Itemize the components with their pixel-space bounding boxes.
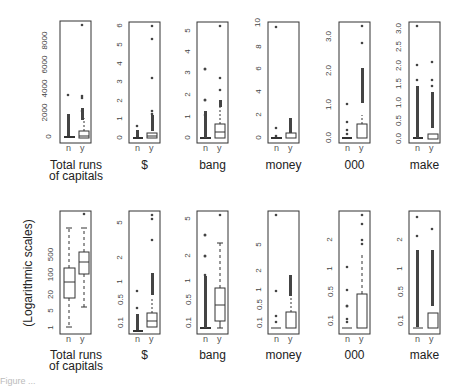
panel-title-dollar: $	[129, 160, 160, 171]
panel-title-make: make	[404, 350, 445, 361]
ytick-l2-4: 5	[115, 220, 124, 224]
panel-title-bang: bang	[192, 160, 233, 171]
ytick-p3-3: 3	[183, 70, 192, 74]
ytick-l4-3: 2	[254, 268, 263, 272]
xlabel-y: y	[217, 334, 222, 344]
ytick-p3-5: 5	[183, 28, 192, 32]
ytick-p4-5: 10	[253, 18, 262, 27]
log-scale-ylabel: (Logarithmic scales)	[21, 213, 35, 333]
xlabel-y: y	[359, 143, 364, 153]
ytick-l1-0: 1	[46, 325, 55, 329]
xlabel-n: n	[203, 143, 208, 153]
ytick-l2-1: 0.5	[116, 294, 125, 305]
panel-title-money: money	[258, 160, 309, 171]
ytick-p2-4: 4	[115, 61, 124, 65]
xlabel-n: n	[415, 334, 420, 344]
panel-title-dollar: $	[129, 350, 160, 361]
ytick-p2-6: 6	[115, 23, 124, 27]
ytick-p6-3: 1.5	[394, 78, 403, 89]
xlabel-y: y	[149, 143, 154, 153]
ytick-l1-1: 5	[46, 308, 55, 312]
ytick-l3-4: 5	[183, 216, 192, 220]
ytick-l6-2: 1	[395, 266, 404, 270]
ytick-l2-2: 1	[115, 279, 124, 283]
ytick-l6-1: 0.5	[396, 286, 405, 297]
ytick-p3-1: 1	[183, 114, 192, 118]
xlabel-n: n	[274, 334, 279, 344]
xlabel-y: y	[429, 143, 434, 153]
panel-title-make: make	[404, 160, 445, 171]
xlabel-y: y	[217, 143, 222, 153]
xlabel-y: y	[288, 334, 293, 344]
ytick-l1-4: 500	[46, 248, 55, 261]
ytick-p5-1: 1.0	[324, 99, 333, 110]
panel-title-total-runs: Total runs of capitals	[45, 350, 107, 372]
panel-title-money: money	[258, 350, 309, 361]
xlabel-y: y	[149, 334, 154, 344]
ytick-p1-0: 0	[44, 134, 53, 138]
ytick-l5-3: 2	[325, 237, 334, 241]
ytick-p3-4: 4	[183, 49, 192, 53]
xlabel-y: y	[80, 334, 85, 344]
ytick-p4-3: 6	[254, 66, 263, 70]
ytick-p1-3: 6000	[40, 56, 49, 74]
panel-title-000: 000	[339, 350, 370, 361]
ytick-l4-2: 1	[254, 287, 263, 291]
ytick-l2-0: 0.1	[116, 317, 125, 328]
xlabel-n: n	[135, 334, 140, 344]
ytick-p5-2: 2.0	[324, 65, 333, 76]
panel-title-total-runs: Total runs of capitals	[45, 160, 107, 182]
ytick-p6-1: 0.5	[394, 115, 403, 126]
xlabel-y: y	[359, 334, 364, 344]
ytick-l3-1: 0.5	[184, 294, 193, 305]
ytick-l4-0: 0.1	[255, 317, 264, 328]
ytick-p2-1: 1	[115, 116, 124, 120]
ytick-p1-2: 4000	[40, 80, 49, 98]
ytick-p6-4: 2.0	[394, 60, 403, 71]
ytick-p4-1: 2	[254, 112, 263, 116]
ytick-p5-3: 3.0	[324, 31, 333, 42]
ytick-p5-0: 0.0	[324, 132, 333, 143]
xlabel-n: n	[345, 334, 350, 344]
ytick-p4-2: 4	[254, 89, 263, 93]
ytick-p6-0: 0.0	[394, 133, 403, 144]
ytick-p2-2: 2	[115, 98, 124, 102]
xlabel-n: n	[203, 334, 208, 344]
xlabel-n: n	[415, 143, 420, 153]
ytick-p6-6: 3.0	[394, 23, 403, 34]
ytick-p3-2: 2	[183, 92, 192, 96]
xlabel-y: y	[80, 143, 85, 153]
ytick-l2-3: 2	[115, 255, 124, 259]
ytick-p1-4: 8000	[40, 32, 49, 50]
ytick-l6-3: 2	[395, 237, 404, 241]
ytick-p1-1: 2000	[40, 104, 49, 122]
panel-title-bang: bang	[192, 350, 233, 361]
ytick-l3-3: 2	[183, 253, 192, 257]
ytick-l1-2: 20	[46, 290, 55, 299]
xlabel-n: n	[135, 143, 140, 153]
ytick-l4-1: 0.5	[255, 299, 264, 310]
ytick-l5-2: 1	[325, 266, 334, 270]
ytick-p4-4: 8	[254, 44, 263, 48]
figure-caption: Figure ...	[0, 376, 36, 386]
xlabel-n: n	[66, 334, 71, 344]
ytick-p4-0: 0	[254, 135, 263, 139]
ytick-p2-3: 3	[115, 79, 124, 83]
ytick-l5-0: 0.1	[326, 315, 335, 326]
ytick-p2-5: 5	[115, 42, 124, 46]
ytick-l6-0: 0.1	[396, 315, 405, 326]
ytick-l5-1: 0.5	[326, 286, 335, 297]
ytick-l3-0: 0.1	[184, 317, 193, 328]
xlabel-n: n	[274, 143, 279, 153]
ytick-p2-0: 0	[115, 135, 124, 139]
ytick-p3-0: 0	[183, 135, 192, 139]
ytick-l3-2: 1	[183, 278, 192, 282]
ytick-l1-3: 100	[46, 268, 55, 281]
panel-title-000: 000	[339, 160, 370, 171]
ytick-p6-5: 2.5	[394, 41, 403, 52]
xlabel-y: y	[288, 143, 293, 153]
ytick-p6-2: 1.0	[394, 97, 403, 108]
xlabel-n: n	[66, 143, 71, 153]
xlabel-y: y	[429, 334, 434, 344]
